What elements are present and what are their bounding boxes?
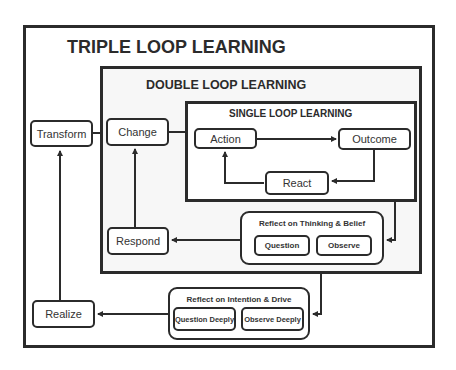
observe-node: Observe (316, 235, 372, 256)
react-node: React (265, 171, 329, 195)
realize-node: Realize (32, 300, 95, 328)
reflect-intention-title: Reflect on Intention & Drive (170, 295, 308, 304)
outcome-node: Outcome (338, 128, 411, 150)
respond-node: Respond (107, 227, 169, 255)
observe-deeply-node: Observe Deeply (241, 307, 304, 331)
action-node: Action (194, 128, 257, 149)
transform-node: Transform (30, 120, 93, 147)
question-deeply-node: Question Deeply (173, 307, 236, 331)
reflect-thinking-title: Reflect on Thinking & Belief (242, 219, 382, 228)
change-node: Change (106, 118, 169, 146)
question-node: Question (254, 235, 310, 256)
